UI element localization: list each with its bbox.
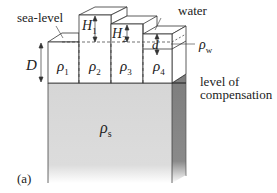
panel-label: (a) [17, 172, 31, 185]
sea-level-label: sea-level [17, 11, 63, 24]
H1-symbol: H [82, 18, 92, 33]
rho1-label: ρ1 [57, 59, 69, 77]
H2-subscript: 2 [122, 34, 127, 44]
rho-w-label: ρw [199, 38, 212, 55]
H2-symbol: H [112, 26, 122, 41]
substratum [48, 74, 186, 183]
D-label: D [26, 58, 37, 73]
rho4-label: ρ4 [153, 59, 165, 77]
water-label: water [178, 4, 207, 17]
rho-w-subscript: w [206, 45, 213, 55]
rho2-subscript: 2 [96, 67, 101, 77]
rhos-symbol: ρ [100, 119, 108, 136]
isostasy-diagram: sea-level water ρw level of compensation… [0, 0, 277, 193]
H1-label: H1 [82, 19, 97, 36]
rho3-label: ρ3 [120, 59, 132, 77]
rhos-subscript: s [108, 128, 112, 139]
rhos-label: ρs [100, 120, 112, 139]
H1-subscript: 1 [92, 26, 97, 36]
rho1-subscript: 1 [64, 67, 69, 77]
level-of-compensation-line2: compensation [200, 88, 272, 101]
D-arrow [39, 43, 43, 82]
rho3-subscript: 3 [127, 67, 132, 77]
H2-label: H2 [112, 27, 127, 44]
d-label: d [152, 38, 159, 51]
rho2-label: ρ2 [89, 59, 101, 77]
rho4-subscript: 4 [160, 67, 165, 77]
rho-w-symbol: ρ [199, 37, 206, 52]
